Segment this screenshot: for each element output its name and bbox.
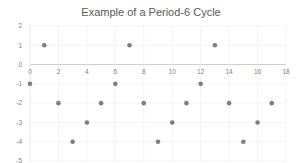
x-tick-label: 0: [28, 68, 32, 75]
data-point: [85, 120, 90, 125]
data-point: [113, 82, 118, 87]
data-point: [269, 101, 274, 106]
x-tick-label: 10: [169, 68, 177, 75]
data-point: [227, 101, 232, 106]
x-tick-label: 14: [225, 68, 233, 75]
x-tick-label: 18: [282, 68, 290, 75]
y-tick-label: -4: [16, 138, 22, 145]
data-point: [42, 43, 47, 48]
data-point: [213, 43, 218, 48]
data-point: [99, 101, 104, 106]
data-point: [70, 139, 75, 144]
scatter-plot-area: 210-1-2-3-4-5024681012141618: [0, 0, 302, 163]
x-tick-label: 16: [254, 68, 262, 75]
y-tick-label: -5: [16, 157, 22, 163]
data-point: [56, 101, 61, 106]
x-tick-label: 8: [142, 68, 146, 75]
y-tick-label: -1: [16, 80, 22, 87]
data-point: [241, 139, 246, 144]
x-tick-label: 2: [57, 68, 61, 75]
x-tick-label: 4: [85, 68, 89, 75]
data-point: [170, 120, 175, 125]
y-tick-label: 0: [18, 61, 22, 68]
y-tick-label: -3: [16, 119, 22, 126]
data-point: [156, 139, 161, 144]
data-point: [127, 43, 132, 48]
data-point: [141, 101, 146, 106]
x-tick-label: 6: [114, 68, 118, 75]
y-tick-label: 2: [18, 22, 22, 29]
data-point: [198, 82, 203, 87]
data-point: [255, 120, 260, 125]
data-point: [184, 101, 189, 106]
x-tick-label: 12: [197, 68, 205, 75]
data-point: [28, 82, 33, 87]
y-tick-label: 1: [18, 42, 22, 49]
y-tick-label: -2: [16, 99, 22, 106]
